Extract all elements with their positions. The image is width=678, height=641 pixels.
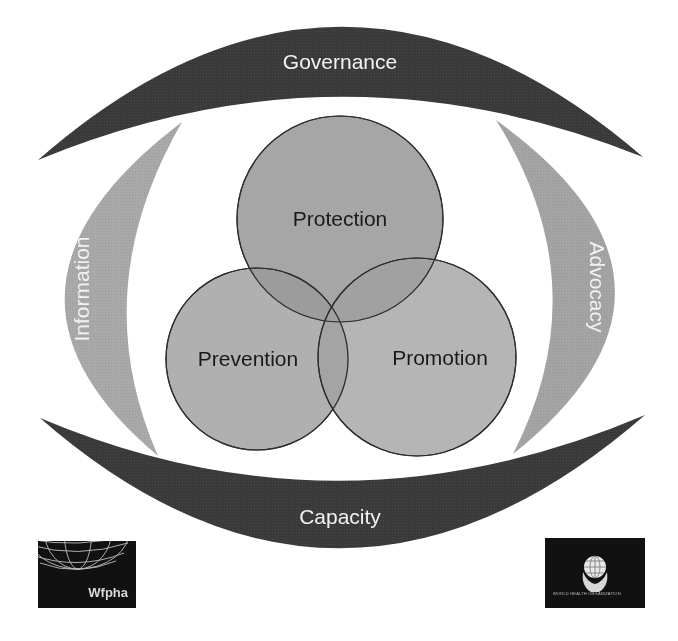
capacity-label: Capacity: [299, 505, 381, 528]
venn-diagram: Protection Prevention Promotion: [160, 110, 520, 470]
globe-in-hands-logo: WORLD HEALTH ORGANIZATION: [545, 538, 645, 608]
wfpha-logo: Wfpha: [38, 541, 136, 608]
information-label: Information: [70, 236, 93, 341]
promotion-label: Promotion: [392, 346, 488, 369]
governance-label: Governance: [283, 50, 397, 73]
globe-in-hands-icon: [545, 538, 645, 608]
protection-label: Protection: [293, 207, 388, 230]
advocacy-label: Advocacy: [586, 241, 609, 333]
prevention-label: Prevention: [198, 347, 298, 370]
who-logo-caption: WORLD HEALTH ORGANIZATION: [553, 591, 621, 596]
wfpha-logo-text: Wfpha: [88, 585, 128, 600]
